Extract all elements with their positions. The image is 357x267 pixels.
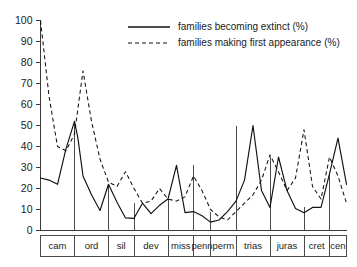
period-label-juras: juras xyxy=(276,240,298,251)
y-axis-ticks: 0102030405060708090100 xyxy=(15,14,41,236)
y-tick-label: 20 xyxy=(21,182,33,194)
y-tick-label: 60 xyxy=(21,98,33,110)
period-axis-band: camordsildevmisspennpermtriasjurascretce… xyxy=(41,236,347,257)
y-tick-label: 80 xyxy=(21,56,33,68)
y-tick-label: 30 xyxy=(21,161,33,173)
y-tick-label: 40 xyxy=(21,140,33,152)
period-label-cret: cret xyxy=(309,240,325,251)
period-label-sil: sil xyxy=(117,240,126,251)
legend-label: families becoming extinct (%) xyxy=(178,21,308,32)
period-label-miss: miss xyxy=(171,240,191,251)
period-label-penn: penn xyxy=(191,240,212,251)
period-divider-lines xyxy=(75,121,330,230)
line-chart: 0102030405060708090100 camordsildevmissp… xyxy=(0,0,357,267)
y-tick-label: 0 xyxy=(27,224,33,236)
period-label-cam: cam xyxy=(49,240,67,251)
period-label-trias: trias xyxy=(244,240,262,251)
y-tick-label: 50 xyxy=(21,119,33,131)
period-label-dev: dev xyxy=(143,240,159,251)
chart-container: 0102030405060708090100 camordsildevmissp… xyxy=(0,0,357,267)
y-tick-label: 10 xyxy=(21,203,33,215)
period-label-perm: perm xyxy=(212,240,234,251)
period-label-ord: ord xyxy=(85,240,99,251)
legend-label: families making first appearance (%) xyxy=(178,37,340,48)
chart-legend: families becoming extinct (%)families ma… xyxy=(128,21,340,48)
y-tick-label: 90 xyxy=(21,35,33,47)
period-label-cen: cen xyxy=(330,240,345,251)
y-tick-label: 100 xyxy=(15,14,33,26)
y-tick-label: 70 xyxy=(21,77,33,89)
